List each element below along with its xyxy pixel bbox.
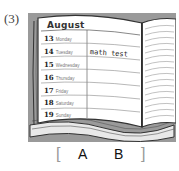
weekday-label: Sunday <box>56 113 71 118</box>
planner-row-14: 14Tuesday <box>44 47 73 56</box>
option-b[interactable]: B <box>114 146 123 162</box>
date-number: 18 <box>44 98 54 107</box>
date-number: 17 <box>44 86 54 95</box>
weekday-label: Wednesday <box>56 63 80 68</box>
weekday-label: Friday <box>56 89 69 94</box>
date-number: 13 <box>44 34 54 43</box>
date-number: 15 <box>44 60 54 69</box>
close-bracket: ] <box>141 145 145 163</box>
planner-row-17: 17Friday <box>44 86 68 95</box>
weekday-label: Monday <box>56 37 72 42</box>
answer-choices: [ A B ] <box>0 146 179 166</box>
question-number: (3) <box>4 11 19 27</box>
date-number: 16 <box>44 73 54 82</box>
option-a[interactable]: A <box>78 146 87 162</box>
planner-row-16: 16Thursday <box>44 73 75 82</box>
date-number: 19 <box>44 110 54 119</box>
planner-row-15: 15Wednesday <box>44 60 79 69</box>
planner-row-18: 18Saturday <box>44 98 74 107</box>
planner-month-heading: August <box>47 20 85 30</box>
weekday-label: Tuesday <box>56 50 73 55</box>
weekday-label: Saturday <box>56 101 74 106</box>
date-number: 14 <box>44 47 54 56</box>
planner-row-13: 13Monday <box>44 34 72 43</box>
planner-row-19: 19Sunday <box>44 110 71 119</box>
open-bracket: [ <box>56 145 60 163</box>
weekday-label: Thursday <box>56 76 75 81</box>
